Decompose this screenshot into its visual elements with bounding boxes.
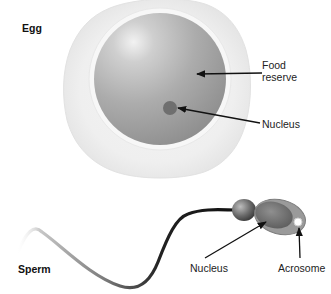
egg-sperm-diagram: Egg Food reserve Nucleus Sperm Nucleus A…	[0, 0, 331, 294]
egg-nucleus-label: Nucleus	[262, 118, 300, 130]
acrosome-label: Acrosome	[278, 262, 325, 274]
egg-nucleus	[163, 101, 177, 115]
egg-cytoplasm	[94, 13, 226, 145]
sperm-title: Sperm	[18, 263, 51, 275]
food-reserve-label-line1: Food	[262, 59, 286, 71]
sperm-acrosome	[294, 218, 302, 226]
sperm-midpiece	[232, 199, 256, 221]
food-reserve-label-line2: reserve	[262, 71, 297, 83]
sperm-tail	[18, 210, 236, 288]
sperm-nucleus-arrow	[205, 222, 266, 258]
sperm-cell	[18, 194, 310, 288]
egg-cell	[64, 0, 251, 178]
egg-title: Egg	[22, 22, 42, 34]
acrosome-arrow	[299, 228, 300, 258]
diagram-graphics	[0, 0, 331, 294]
sperm-nucleus-label: Nucleus	[190, 262, 228, 274]
